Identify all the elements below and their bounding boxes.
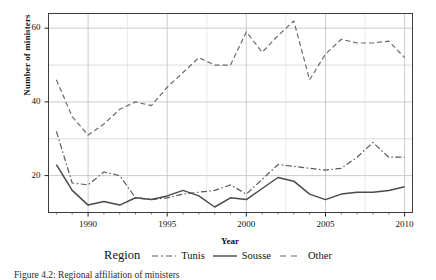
x-tick-label-1990: 1990 bbox=[68, 219, 108, 229]
x-tick-label-2010: 2010 bbox=[385, 219, 425, 229]
legend-swatch-tunis bbox=[151, 252, 177, 260]
x-tick-label-2005: 2005 bbox=[305, 219, 345, 229]
x-axis-title: Year bbox=[48, 236, 412, 246]
y-tick-label-60: 60 bbox=[19, 22, 41, 32]
series-line-other bbox=[56, 21, 404, 135]
legend-entry-other[interactable]: Other bbox=[278, 250, 332, 261]
legend-swatch-other bbox=[278, 252, 304, 260]
legend-title: Region bbox=[104, 248, 140, 263]
legend-entry-sousse[interactable]: Sousse bbox=[212, 250, 271, 261]
x-tick-label-1995: 1995 bbox=[147, 219, 187, 229]
data-series-layer bbox=[56, 21, 404, 207]
figure-container: Number of ministers 204060 1990199520002… bbox=[0, 0, 436, 280]
legend-label-other: Other bbox=[308, 250, 332, 261]
legend-swatch-sousse bbox=[212, 252, 238, 260]
chart-legend: Region Tunis Sousse Other bbox=[0, 248, 436, 263]
legend-label-tunis: Tunis bbox=[181, 250, 205, 261]
axis-ticks bbox=[45, 28, 405, 216]
y-tick-label-20: 20 bbox=[19, 170, 41, 180]
x-tick-label-2000: 2000 bbox=[226, 219, 266, 229]
legend-entry-tunis[interactable]: Tunis bbox=[151, 250, 205, 261]
figure-caption: Figure 4.2: Regional affiliation of mini… bbox=[14, 270, 424, 280]
legend-label-sousse: Sousse bbox=[242, 250, 271, 261]
y-tick-label-40: 40 bbox=[19, 96, 41, 106]
series-line-tunis bbox=[56, 131, 404, 199]
series-line-sousse bbox=[56, 165, 404, 207]
